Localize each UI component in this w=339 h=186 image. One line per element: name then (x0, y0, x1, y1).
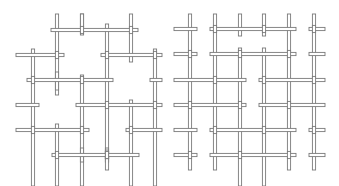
horizontal-rod (76, 103, 162, 106)
rod-crossing (213, 25, 216, 32)
rod-crossing (312, 25, 315, 32)
vertical-rod (188, 14, 191, 170)
rod-crossing (238, 101, 241, 108)
rod-crossing (105, 51, 108, 58)
rod-crossing (188, 50, 191, 57)
rod-crossing (287, 101, 290, 108)
horizontal-rod (210, 27, 296, 30)
rod-crossing (188, 151, 191, 158)
vertical-rod (153, 49, 156, 186)
rod-crossing (31, 126, 34, 133)
lattice-diagram (0, 0, 339, 186)
horizontal-rod (210, 128, 296, 131)
horizontal-rod (52, 153, 139, 156)
rod-crossing (312, 126, 315, 133)
vertical-rod (238, 14, 241, 36)
horizontal-rod (16, 128, 89, 131)
left-lattice-pattern (16, 14, 162, 186)
rod-crossing (55, 51, 58, 58)
horizontal-rod (174, 103, 246, 106)
horizontal-rod (309, 52, 325, 55)
horizontal-rod (174, 153, 197, 156)
horizontal-rod (150, 78, 162, 81)
horizontal-rod (259, 103, 325, 106)
rod-crossing (31, 76, 34, 83)
vertical-rod (238, 48, 241, 186)
rod-crossing (262, 126, 265, 133)
vertical-rod (262, 48, 265, 186)
rod-crossing (213, 126, 216, 133)
vertical-rod (312, 14, 315, 170)
rod-crossing (80, 126, 83, 133)
horizontal-rod (174, 78, 246, 81)
horizontal-rod (309, 128, 325, 131)
horizontal-rod (210, 153, 296, 156)
horizontal-rod (174, 52, 197, 55)
rod-crossing (287, 151, 290, 158)
rod-crossing (262, 25, 265, 32)
horizontal-rod (101, 53, 162, 56)
rod-crossing (188, 101, 191, 108)
rod-crossing (287, 50, 290, 57)
rod-crossing (129, 26, 132, 33)
rod-crossing (129, 126, 132, 133)
rod-crossing (262, 76, 265, 83)
rod-crossing (105, 101, 108, 108)
horizontal-rod (174, 128, 197, 131)
rod-crossing (213, 76, 216, 83)
right-lattice-pattern (174, 14, 325, 186)
vertical-rod (129, 100, 132, 186)
horizontal-rod (51, 28, 138, 31)
rod-crossing (80, 76, 83, 83)
rod-crossing (238, 50, 241, 57)
vertical-rod (31, 49, 34, 186)
vertical-rod (213, 14, 216, 170)
horizontal-rod (16, 103, 39, 106)
rod-crossing (312, 76, 315, 83)
horizontal-rod (210, 52, 296, 55)
horizontal-rod (174, 27, 197, 30)
rod-crossing (153, 101, 156, 108)
rod-crossing (153, 51, 156, 58)
horizontal-rod (27, 78, 113, 81)
vertical-rod (105, 24, 108, 162)
horizontal-rod (309, 153, 325, 156)
rod-crossing (80, 26, 83, 33)
rod-crossing (238, 151, 241, 158)
rod-crossing (105, 151, 108, 158)
vertical-rod (287, 14, 290, 170)
horizontal-rod (309, 27, 325, 30)
rod-crossing (55, 151, 58, 158)
